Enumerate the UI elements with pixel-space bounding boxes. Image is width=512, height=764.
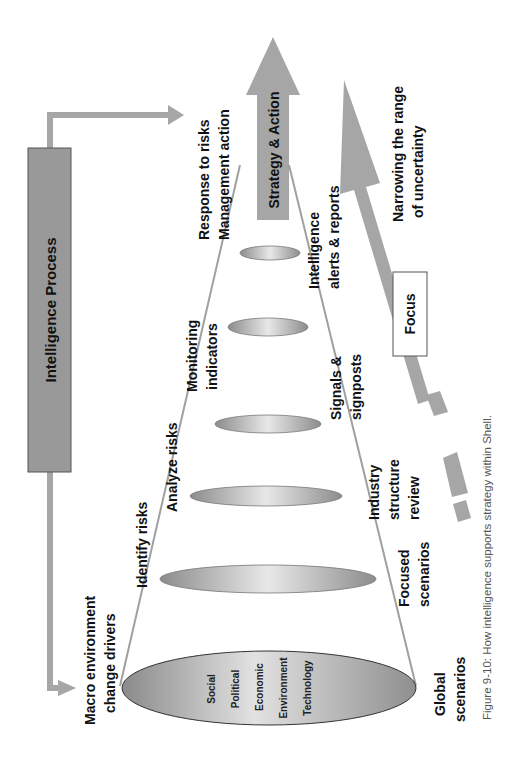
stage-label-response-line1: Response to risks	[196, 119, 212, 240]
dash-segment	[426, 391, 448, 416]
focus-label: Focus	[402, 293, 418, 334]
intelligence-diagram: Intelligence Process Strategy & Action S…	[0, 0, 512, 764]
intelligence-process-label: Intelligence Process	[42, 237, 59, 382]
stage-label-analyze: Analyze risks	[164, 422, 180, 512]
driver-environment: Environment	[278, 657, 289, 719]
driver-technology: Technology	[302, 660, 313, 716]
stage-disc-5	[240, 246, 300, 260]
stage-label-industry-line1: Industry	[366, 465, 382, 520]
arrow-right-icon	[168, 105, 184, 125]
stage-disc-1	[160, 565, 376, 593]
stage-label-industry-line2: structure	[386, 459, 402, 520]
driver-economic: Economic	[254, 663, 265, 711]
stage-label-signals-line2: signposts	[348, 354, 364, 420]
stage-label-focused-line1: Focused	[396, 549, 412, 607]
narrowing-label-line1: Narrowing the range	[390, 86, 406, 222]
dash-segment	[443, 452, 468, 497]
stage-label-intelligence-line1: Intelligence	[306, 212, 322, 289]
stage-label-response-line2: Management action	[216, 109, 232, 240]
driver-social: Social	[206, 674, 217, 704]
stage-disc-2	[190, 486, 342, 506]
upper-stage-labels: Macro environment change drivers Identif…	[82, 109, 232, 725]
stage-label-monitoring-line1: Monitoring	[184, 320, 200, 392]
stage-label-monitoring-line2: indicators	[204, 323, 220, 390]
stage-label-signals-line1: Signals &	[328, 356, 344, 420]
stage-label-intelligence-line2: alerts & reports	[326, 185, 342, 289]
stage-label-global-line1: Global	[432, 672, 448, 716]
stage-label-macro-line1: Macro environment	[82, 596, 98, 725]
narrowing-label-line2: of uncertainty	[410, 125, 426, 218]
stage-disc-3	[215, 415, 321, 433]
dash-segment	[453, 500, 471, 522]
stage-label-industry-line3: review	[406, 476, 422, 520]
stage-label-global-line2: scenarios	[452, 656, 468, 722]
stage-label-focused-line2: scenarios	[416, 541, 432, 607]
global-scenarios-disc	[122, 651, 416, 725]
stage-disc-4	[228, 318, 308, 336]
strategy-action-label: Strategy & Action	[266, 92, 282, 209]
stage-label-identify: Identify risks	[134, 501, 150, 588]
stage-label-macro-line2: change drivers	[102, 613, 118, 713]
figure-caption: Figure 9-10: How intelligence supports s…	[481, 415, 493, 720]
driver-political: Political	[230, 670, 241, 709]
arrow-right-icon	[58, 680, 76, 696]
